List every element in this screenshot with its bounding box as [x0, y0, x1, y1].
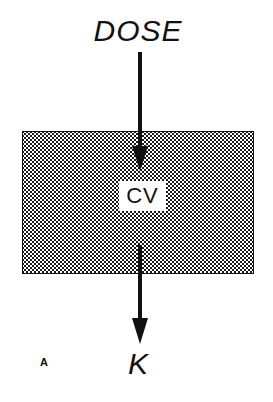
- compartment-label: CV: [119, 181, 166, 211]
- panel-label: A: [40, 355, 48, 369]
- elimination-rate-label: K: [118, 348, 158, 380]
- dose-label: DOSE: [88, 14, 188, 48]
